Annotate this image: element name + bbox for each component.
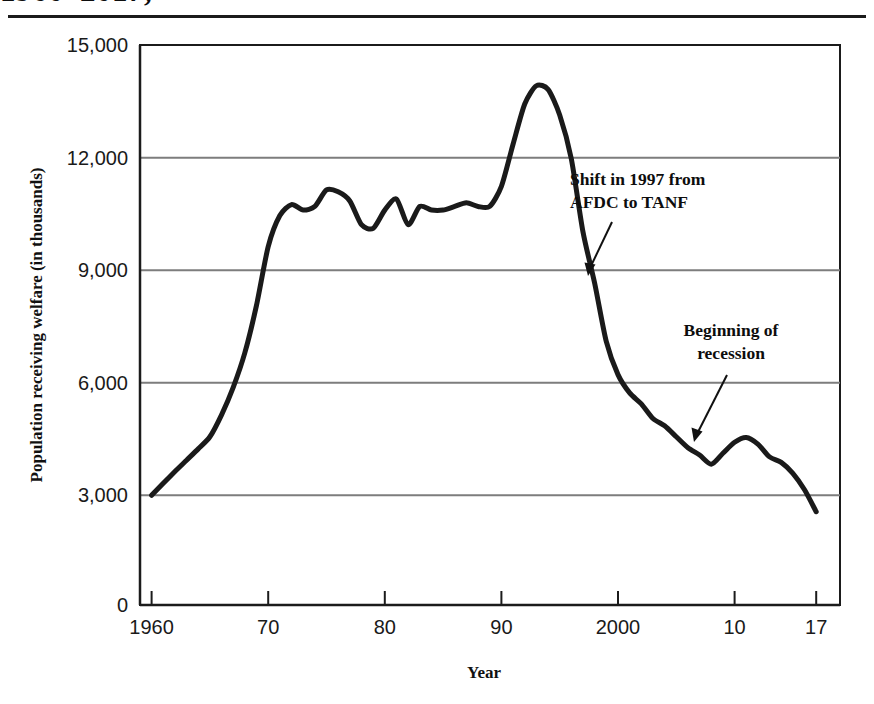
x-tick-label-1970: 70 [257, 616, 279, 638]
x-tick-label-1960: 1960 [129, 616, 174, 638]
x-tick-label-1990: 90 [490, 616, 512, 638]
y-tick-label-9000: 9,000 [78, 259, 128, 281]
y-tick-label-3000: 3,000 [78, 484, 128, 506]
x-tick-label-1980: 80 [374, 616, 396, 638]
y-tick-labels: 15,000 12,000 9,000 6,000 3,000 0 [67, 34, 128, 616]
y-tick-label-15000: 15,000 [67, 34, 128, 56]
annotation-recession-line1: Beginning of [684, 320, 779, 340]
y-tick-label-6000: 6,000 [78, 372, 128, 394]
annotation-shift-line1: Shift in 1997 from [570, 169, 706, 189]
line-chart: 15,000 12,000 9,000 6,000 3,000 0 1960 7… [0, 0, 874, 704]
y-tick-label-12000: 12,000 [67, 147, 128, 169]
x-axis-title: Year [467, 663, 501, 682]
x-tick-labels: 1960 70 80 90 2000 10 17 [129, 616, 827, 638]
x-tick-label-2017: 17 [805, 616, 827, 638]
welfare-population-figure: 1960–2017, 15,000 12,000 9,000 6,000 3,0… [0, 0, 874, 704]
annotation-recession-line2: recession [697, 343, 765, 363]
x-tick-label-2010: 10 [723, 616, 745, 638]
y-axis-title: Population receiving welfare (in thousan… [27, 168, 46, 483]
x-tick-label-2000: 2000 [596, 616, 641, 638]
y-tick-label-0: 0 [117, 594, 128, 616]
annotation-shift-line2: AFDC to TANF [570, 192, 688, 212]
